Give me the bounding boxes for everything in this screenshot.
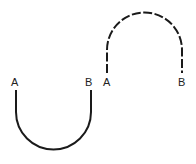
arch-curve-label-b: B [178, 76, 185, 88]
u-curve-label-b: B [85, 76, 92, 88]
diagram: A B A B [0, 0, 196, 164]
arch-curve-dashed-line [107, 13, 182, 74]
arch-curve-label-a: A [103, 76, 111, 88]
u-curve-figure: A B [11, 76, 92, 150]
u-curve-label-a: A [11, 76, 19, 88]
u-curve-solid-line [16, 90, 91, 150]
arch-curve-figure: A B [103, 13, 185, 89]
